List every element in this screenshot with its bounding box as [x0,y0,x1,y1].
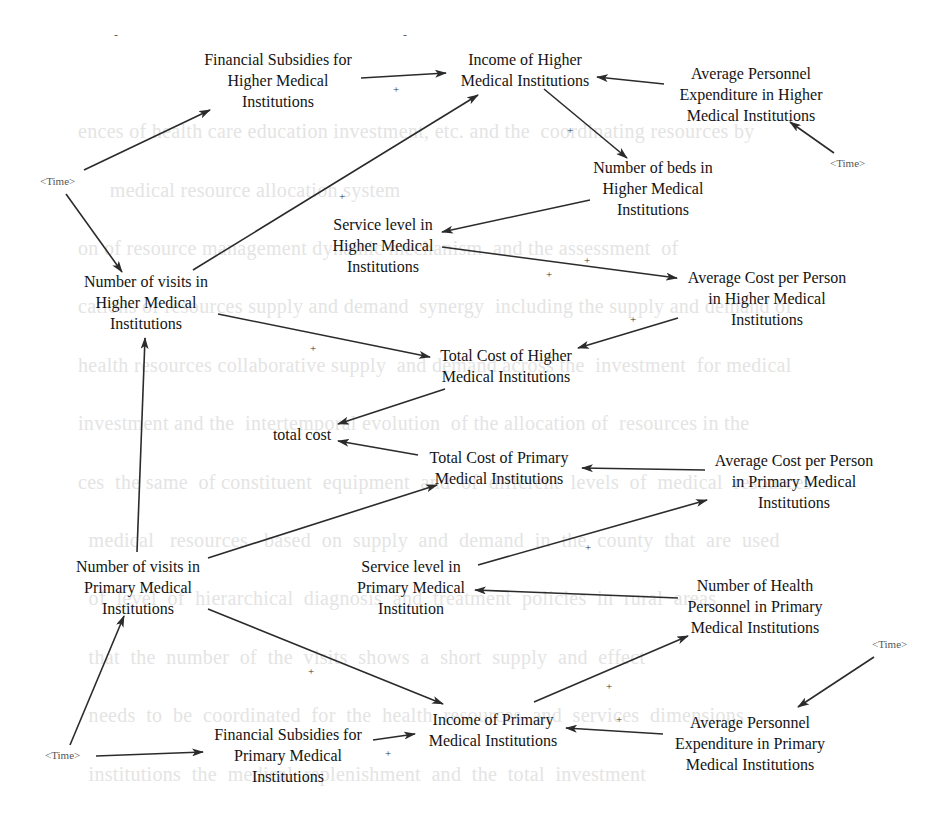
node-avg-personnel-expenditure-primary: Average Personnel Expenditure in Primary… [664,712,836,775]
link-beds-to-service-higher [442,200,590,232]
link-avg-cost-to-total-cost-primary [582,468,705,470]
polarity-mark: + [567,125,573,136]
polarity-mark: + [546,269,552,280]
link-time-to-fin-sub-higher [84,110,210,170]
polarity-mark: + [616,714,622,725]
link-total-cost-higher-to-total-cost [338,389,445,424]
dash-mark: - [114,28,118,43]
node-total-cost-primary: Total Cost of Primary Medical Institutio… [420,447,578,489]
node-visits-primary: Number of visits in Primary Medical Inst… [68,556,208,619]
dash-mark: - [403,28,407,43]
node-avg-cost-primary: Average Cost per Person in Primary Medic… [707,450,881,513]
link-total-cost-primary-to-total-cost [338,441,418,455]
link-visits-to-total-cost-higher [218,314,430,357]
link-service-to-avg-cost-higher [442,247,677,278]
node-visits-higher: Number of visits in Higher Medical Insti… [76,271,216,334]
node-service-level-primary: Service level in Primary Medical Institu… [352,556,470,619]
polarity-mark: + [585,542,591,553]
polarity-mark: + [308,666,314,677]
link-avg-pers-exp-to-income-primary [566,728,663,734]
link-time-to-visits-higher [66,194,122,272]
link-visits-primary-to-total-cost-primary [208,485,437,558]
polarity-mark: + [339,191,345,202]
node-income-primary: Income of Primary Medical Institutions [418,709,568,751]
node-avg-personnel-expenditure-higher: Average Personnel Expenditure in Higher … [665,63,837,126]
polarity-mark: + [606,681,612,692]
polarity-mark: + [385,748,391,759]
link-service-to-avg-cost-primary [478,500,707,565]
polarity-mark: + [546,352,552,363]
link-time-to-fin-sub-primary [96,752,203,756]
polarity-mark: + [393,84,399,95]
node-financial-subsidies-higher: Financial Subsidies for Higher Medical I… [195,49,361,112]
node-financial-subsidies-primary: Financial Subsidies for Primary Medical … [205,724,371,787]
node-total-cost-higher: Total Cost of Higher Medical Institution… [432,345,580,387]
link-time-to-visits-primary [70,616,124,745]
node-beds-higher: Number of beds in Higher Medical Institu… [588,157,718,220]
link-avg-cost-to-total-cost-higher [578,318,678,348]
time-shadow-variable: <Time> [45,749,80,761]
link-avg-pers-exp-to-income-higher [597,77,664,84]
polarity-mark: + [584,255,590,266]
link-income-to-beds-higher [544,89,627,158]
link-visits-primary-to-visits-higher [137,338,145,552]
time-shadow-variable: <Time> [872,638,907,650]
link-health-pers-to-service-primary [475,590,678,598]
link-visits-primary-to-income-primary [208,609,443,704]
link-time-to-avg-pers-exp-primary [798,657,874,707]
link-income-to-health-pers-primary [534,636,688,702]
link-fin-sub-to-income-primary [373,734,415,740]
polarity-mark: + [310,343,316,354]
polarity-mark: + [630,314,636,325]
time-shadow-variable: <Time> [40,175,75,187]
node-service-level-higher: Service level in Higher Medical Institut… [324,214,442,277]
link-time-to-avg-pers-exp-higher [790,122,834,153]
time-shadow-variable: <Time> [830,157,865,169]
node-avg-cost-higher: Average Cost per Person in Higher Medica… [680,267,854,330]
link-fin-sub-to-income-higher [361,73,446,78]
node-income-higher: Income of Higher Medical Institutions [445,49,605,91]
node-health-personnel-primary: Number of Health Personnel in Primary Me… [680,575,830,638]
node-total-cost: total cost [268,424,336,445]
